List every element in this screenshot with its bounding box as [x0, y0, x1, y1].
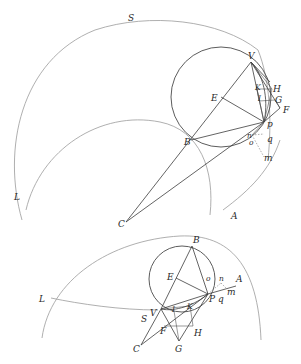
label-m: m [264, 153, 273, 163]
label-V: V [248, 51, 256, 61]
label-q: q [267, 134, 273, 144]
dash-n-m [221, 283, 226, 288]
line-i-g [259, 100, 275, 101]
line-b-v [161, 246, 192, 309]
label-I: I [257, 94, 262, 103]
label-L-bottom: L [38, 294, 45, 304]
inner-arc [26, 120, 211, 215]
label-G-bottom: G [175, 344, 182, 354]
label-o: o [249, 138, 254, 147]
label-F-bottom: F [159, 326, 167, 336]
label-B-bottom: B [192, 235, 200, 245]
bottom-diagram: B E o n A m P q L S V I K C F G H [38, 235, 261, 354]
geometry-figure: S V H K I G F E B p q n o m L C A [0, 0, 301, 364]
label-K-bottom: K [186, 302, 193, 311]
label-G: G [275, 95, 282, 105]
label-H: H [272, 84, 281, 94]
label-S-bottom: S [141, 314, 147, 324]
label-E: E [210, 93, 218, 103]
label-K: K [254, 83, 261, 92]
label-F: F [282, 105, 290, 115]
curve-l-s [51, 298, 158, 310]
line-c-p [126, 122, 264, 222]
label-C: C [118, 219, 125, 229]
label-H-bottom: H [193, 328, 202, 338]
label-n-bottom: n [219, 274, 224, 283]
label-p: p [267, 119, 273, 129]
label-A-bottom: A [235, 274, 243, 284]
label-E-bottom: E [166, 272, 174, 282]
label-q-bottom: q [218, 294, 224, 304]
label-P-bottom: P [208, 294, 216, 304]
label-C-bottom: C [133, 344, 140, 354]
label-m-bottom: m [227, 287, 236, 297]
line-p-n [252, 122, 264, 135]
label-L: L [13, 192, 20, 202]
label-o-bottom: o [206, 274, 211, 283]
label-B: B [183, 137, 191, 147]
top-diagram: S V H K I G F E B p q n o m L C A [13, 13, 290, 229]
label-S: S [128, 13, 134, 23]
arc-a-right [223, 140, 280, 210]
label-A: A [230, 211, 238, 221]
dash-n-m [252, 135, 264, 157]
